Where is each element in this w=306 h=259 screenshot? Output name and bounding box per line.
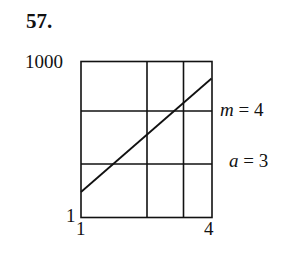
x-tick-right: 4 — [204, 218, 214, 240]
slope-var: m — [220, 99, 234, 120]
coefficient-value: = 3 — [239, 150, 269, 171]
slope-value: = 4 — [234, 99, 264, 120]
y-tick-top: 1000 — [25, 51, 63, 73]
coefficient-var: a — [229, 150, 239, 171]
log-log-chart — [0, 0, 306, 259]
coefficient-label: a = 3 — [229, 150, 268, 172]
slope-label: m = 4 — [220, 99, 263, 121]
y-tick-bottom: 1 — [66, 205, 76, 227]
x-tick-left: 1 — [76, 218, 86, 240]
